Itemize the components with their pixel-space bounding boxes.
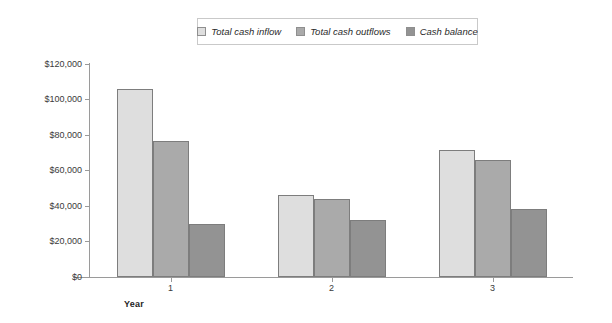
y-axis-tick-mark [85, 99, 90, 100]
x-axis-line [73, 277, 573, 278]
y-axis-tick-mark [85, 206, 90, 207]
plot-area: $0$20,000$40,000$60,000$80,000$100,000$1… [90, 64, 573, 277]
x-axis-tick-label: 3 [490, 284, 495, 293]
x-axis-title: Year [0, 299, 612, 309]
legend-entry-cash-balance: Cash balance [406, 27, 478, 37]
bar-chart: Total cash inflow Total cash outflows Ca… [0, 0, 612, 323]
x-axis-tick-label: 2 [329, 284, 334, 293]
y-axis-tick-label: $60,000 [49, 166, 82, 175]
x-axis-tick-mark [171, 277, 172, 282]
legend-label-series-1: Total cash inflow [211, 27, 281, 37]
y-axis-tick-mark [85, 64, 90, 65]
legend-label-series-3: Cash balance [420, 27, 478, 37]
bar-series-3-category-1 [189, 224, 225, 277]
chart-legend: Total cash inflow Total cash outflows Ca… [197, 18, 478, 45]
x-axis-tick-mark [332, 277, 333, 282]
y-axis-tick-label: $80,000 [49, 130, 82, 139]
bar-series-2-category-2 [314, 199, 350, 277]
bar-series-1-category-2 [278, 195, 314, 277]
x-axis-tick-label: 1 [168, 284, 173, 293]
bar-series-3-category-2 [350, 220, 386, 277]
x-axis-title-text: Year [124, 299, 144, 309]
bar-series-3-category-3 [511, 209, 547, 277]
x-axis-tick-mark [493, 277, 494, 282]
bar-series-1-category-1 [117, 89, 153, 277]
y-axis-tick-label: $100,000 [44, 95, 82, 104]
bar-series-2-category-3 [475, 160, 511, 277]
legend-label-series-2: Total cash outflows [310, 27, 390, 37]
y-axis-tick-mark [85, 135, 90, 136]
legend-swatch-icon-series-3 [406, 27, 415, 36]
y-axis-tick-label: $40,000 [49, 201, 82, 210]
bar-series-2-category-1 [153, 141, 189, 277]
legend-swatch-icon-series-1 [197, 27, 206, 36]
bar-series-1-category-3 [439, 150, 475, 277]
y-axis-tick-label: $0 [72, 272, 82, 281]
y-axis-tick-label: $20,000 [49, 237, 82, 246]
legend-entry-total-cash-outflows: Total cash outflows [296, 27, 390, 37]
legend-swatch-icon-series-2 [296, 27, 305, 36]
y-axis-tick-label: $120,000 [44, 59, 82, 68]
y-axis-tick-mark [85, 241, 90, 242]
y-axis-tick-mark [85, 277, 90, 278]
y-axis-tick-mark [85, 170, 90, 171]
legend-entry-total-cash-inflow: Total cash inflow [197, 27, 281, 37]
